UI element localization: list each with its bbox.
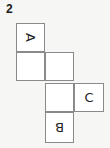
net-face-a: A	[16, 23, 45, 52]
net-face-blank-1	[16, 52, 45, 81]
figure-number: 2	[6, 3, 13, 15]
net-face-b: B	[45, 112, 74, 143]
net-face-blank-3	[45, 83, 74, 112]
net-face-blank-2	[45, 52, 74, 81]
face-letter: C	[84, 91, 93, 104]
face-letter: B	[55, 121, 64, 134]
face-letter: A	[24, 33, 37, 42]
net-face-c: C	[74, 83, 104, 112]
